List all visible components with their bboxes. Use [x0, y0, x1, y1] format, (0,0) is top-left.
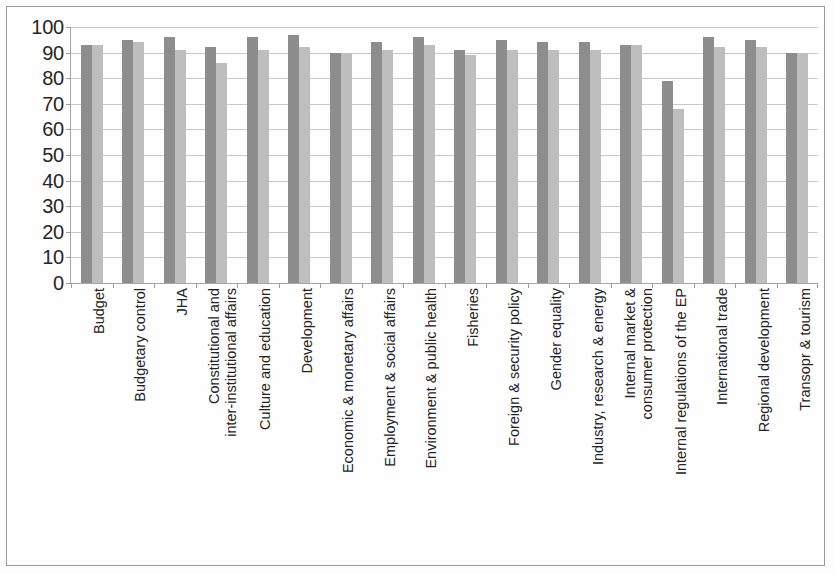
x-label-slot: Internal market &consumer protection [610, 288, 652, 558]
x-axis-label: Gender equality [548, 288, 565, 390]
x-axis-label-line: Internal regulations of the EP [673, 288, 690, 475]
bar[interactable] [548, 50, 559, 283]
bar[interactable] [133, 42, 144, 283]
bar-group [777, 27, 819, 283]
bar[interactable] [216, 63, 227, 283]
bar-chart: 0102030405060708090100 BudgetBudgetary c… [0, 0, 835, 574]
x-label-slot: Regional development [735, 288, 777, 558]
x-axis-label-line: Budgetary control [132, 288, 149, 402]
bar[interactable] [258, 50, 269, 283]
x-label-slot: Economic & monetary affairs [319, 288, 361, 558]
bar[interactable] [424, 45, 435, 283]
bar-group [154, 27, 196, 283]
y-tick-label: 100 [18, 17, 64, 37]
x-label-slot: Industry, research & energy [569, 288, 611, 558]
bar[interactable] [537, 42, 548, 283]
x-axis-label: Development [299, 288, 316, 373]
chart-page: 0102030405060708090100 BudgetBudgetary c… [0, 0, 835, 574]
y-tick-label: 60 [18, 119, 64, 139]
bar[interactable] [465, 55, 476, 283]
bar-group [320, 27, 362, 283]
x-axis-label-line: Constitutional and [206, 288, 223, 437]
bar[interactable] [703, 37, 714, 283]
bar-group [362, 27, 404, 283]
bar[interactable] [507, 50, 518, 283]
bar-group [71, 27, 113, 283]
bar[interactable] [299, 47, 310, 283]
bars-layer [71, 27, 818, 283]
bar[interactable] [164, 37, 175, 283]
bar[interactable] [496, 40, 507, 283]
x-axis-label: Internal market &consumer protection [622, 288, 655, 419]
x-label-slot: Internal regulations of the EP [652, 288, 694, 558]
y-tick-label: 20 [18, 222, 64, 242]
x-axis-label-line: Gender equality [548, 288, 565, 390]
x-axis-label-line: Economic & monetary affairs [340, 288, 357, 473]
plot-area [70, 27, 818, 283]
bar[interactable] [92, 45, 103, 283]
bar-group [445, 27, 487, 283]
x-label-slot: JHA [153, 288, 195, 558]
x-axis-label: JHA [174, 288, 191, 315]
x-axis-label: International trade [714, 288, 731, 405]
bar[interactable] [205, 47, 216, 283]
x-axis-label: Budget [91, 288, 108, 334]
bar-group [403, 27, 445, 283]
x-label-slot: Budgetary control [112, 288, 154, 558]
x-label-slot: International trade [693, 288, 735, 558]
bar[interactable] [175, 50, 186, 283]
y-tick-label: 70 [18, 94, 64, 114]
x-label-slot: Foreign & security policy [486, 288, 528, 558]
bar[interactable] [341, 53, 352, 283]
x-axis-label-line: Transopr & tourism [797, 288, 814, 411]
bar[interactable] [673, 109, 684, 283]
bar[interactable] [714, 47, 725, 283]
x-axis-label-line: Internal market & [622, 288, 639, 419]
bar[interactable] [620, 45, 631, 283]
x-label-slot: Employment & social affairs [361, 288, 403, 558]
x-axis-label-line: Fisheries [465, 288, 482, 347]
x-label-slot: Gender equality [527, 288, 569, 558]
bar[interactable] [631, 45, 642, 283]
bar[interactable] [756, 47, 767, 283]
x-label-slot: Development [278, 288, 320, 558]
x-axis-label: Internal regulations of the EP [673, 288, 690, 475]
x-axis-label-line: Industry, research & energy [590, 288, 607, 465]
x-axis-label-line: Budget [91, 288, 108, 334]
y-tick-label: 0 [18, 273, 64, 293]
bar[interactable] [382, 50, 393, 283]
x-axis-label: Environment & public health [423, 288, 440, 469]
x-axis-label-line: Environment & public health [423, 288, 440, 469]
y-tick-label: 30 [18, 196, 64, 216]
x-label-slot: Culture and education [236, 288, 278, 558]
y-tick-label: 40 [18, 171, 64, 191]
bar[interactable] [797, 53, 808, 283]
bar[interactable] [786, 53, 797, 283]
x-axis-label: Budgetary control [132, 288, 149, 402]
bar[interactable] [454, 50, 465, 283]
x-axis-label: Transopr & tourism [797, 288, 814, 411]
bar[interactable] [81, 45, 92, 283]
x-label-slot: Transopr & tourism [777, 288, 819, 558]
bar[interactable] [330, 53, 341, 283]
bar[interactable] [371, 42, 382, 283]
bar[interactable] [247, 37, 258, 283]
x-axis-label-line: International trade [714, 288, 731, 405]
x-axis-label-line: Culture and education [257, 288, 274, 430]
bar-group [528, 27, 570, 283]
y-tick-label: 50 [18, 145, 64, 165]
x-axis-label-line: JHA [174, 288, 191, 315]
bar[interactable] [590, 50, 601, 283]
bar[interactable] [122, 40, 133, 283]
bar[interactable] [413, 37, 424, 283]
bar[interactable] [662, 81, 673, 283]
x-label-slot: Constitutional andinter-institutional af… [195, 288, 237, 558]
x-axis-label: Foreign & security policy [506, 288, 523, 446]
bar[interactable] [288, 35, 299, 283]
bar[interactable] [579, 42, 590, 283]
x-label-slot: Budget [70, 288, 112, 558]
x-label-slot: Fisheries [444, 288, 486, 558]
bar[interactable] [745, 40, 756, 283]
x-axis-label-line: Regional development [756, 288, 773, 432]
bar-group [735, 27, 777, 283]
